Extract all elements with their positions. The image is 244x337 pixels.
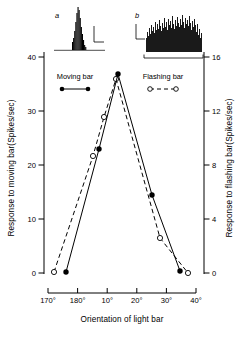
- right-axis-tick-8: 8: [212, 161, 216, 170]
- legend-item-moving-bar-label: Moving bar: [57, 72, 94, 81]
- figure-panel: a b: [0, 0, 244, 337]
- left-axis-tick-10: 10: [28, 215, 36, 224]
- data-point: [51, 269, 56, 274]
- data-point: [177, 268, 182, 273]
- left-axis-tick-20: 20: [28, 161, 36, 170]
- right-axis-tick-16: 16: [212, 53, 220, 62]
- right-axis-tick-4: 4: [212, 215, 216, 224]
- data-point: [149, 192, 154, 197]
- bottom-axis-tick-170: 170°: [40, 296, 56, 305]
- data-point: [90, 153, 95, 158]
- bottom-axis-tick-30: 30°: [161, 296, 172, 305]
- data-point: [185, 270, 190, 275]
- inset-a-label: a: [55, 11, 59, 20]
- data-point: [101, 114, 106, 119]
- right-axis-title: Response to flashing bar(Spikes/sec): [225, 98, 234, 237]
- data-point: [63, 269, 68, 274]
- right-axis-tick-12: 12: [212, 107, 220, 116]
- bottom-axis-tick-10: 10°: [101, 296, 112, 305]
- left-axis-tick-30: 30: [28, 107, 36, 116]
- data-point: [96, 146, 101, 151]
- left-axis-title: Response to moving bar(Spikes/sec): [7, 99, 16, 236]
- bottom-axis-tick-40: 40°: [190, 296, 201, 305]
- orientation-tuning-chart: a b: [0, 0, 244, 337]
- left-axis-tick-40: 40: [28, 53, 36, 62]
- inset-b-label: b: [135, 11, 139, 20]
- chart-background: [0, 0, 244, 337]
- right-axis-tick-0: 0: [212, 269, 216, 278]
- left-axis-tick-0: 0: [32, 269, 36, 278]
- legend-item-flashing-bar-label: Flashing bar: [143, 72, 184, 81]
- bottom-axis-title: Orientation of light bar: [81, 315, 164, 324]
- data-point: [157, 235, 162, 240]
- bottom-axis-tick-180: 180°: [70, 296, 86, 305]
- data-point: [115, 71, 120, 76]
- bottom-axis-tick-20: 20°: [131, 296, 142, 305]
